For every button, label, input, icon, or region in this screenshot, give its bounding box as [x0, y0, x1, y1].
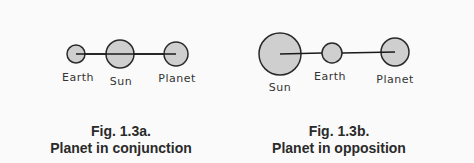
figure-title: Planet in opposition: [272, 140, 406, 156]
earth-circle-icon: [322, 43, 342, 63]
figure-number: Fig. 1.3a.: [91, 123, 151, 139]
figure-title: Planet in conjunction: [50, 140, 192, 156]
figure-number: Fig. 1.3b.: [309, 123, 370, 139]
figure-conjunction: Earth Sun Planet Fig. 1.3a. Planet in co…: [50, 40, 196, 156]
alignment-line-earth-planet: [342, 52, 395, 53]
earth-label: Earth: [314, 70, 346, 83]
planet-label: Planet: [376, 73, 414, 86]
planet-label: Planet: [158, 72, 196, 85]
alignment-line-sun-earth: [280, 53, 322, 54]
figure-opposition: Sun Earth Planet Fig. 1.3b. Planet in op…: [259, 33, 414, 156]
earth-label: Earth: [62, 71, 94, 84]
diagram-canvas: Earth Sun Planet Fig. 1.3a. Planet in co…: [0, 0, 474, 163]
sun-label: Sun: [269, 81, 291, 94]
sun-label: Sun: [110, 75, 132, 88]
